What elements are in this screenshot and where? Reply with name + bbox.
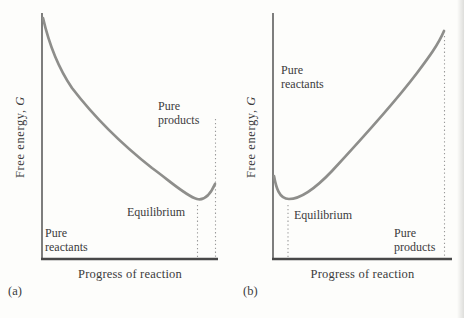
panel-a-y-axis-label-text: Free energy, xyxy=(13,106,27,178)
panel-a-equilibrium-label: Equilibrium xyxy=(127,206,185,220)
panel-a-y-axis-label-symbol: G xyxy=(13,96,27,106)
panel-b-y-axis-label: Free energy, G xyxy=(244,96,259,178)
panel-b-free-energy-curve xyxy=(274,31,444,199)
panel-b-pure-products-label: Pure products xyxy=(394,227,435,254)
panel-b-y-axis-label-text: Free energy, xyxy=(244,106,258,178)
panel-b-x-axis-label: Progress of reaction xyxy=(273,267,452,282)
panel-a-tag: (a) xyxy=(8,284,22,299)
panel-a-y-axis-label: Free energy, G xyxy=(13,96,28,178)
panel-b-equilibrium-label: Equilibrium xyxy=(294,209,352,223)
panel-b-pure-reactants-label: Pure reactants xyxy=(281,64,324,91)
panel-a-pure-products-label: Pure products xyxy=(158,100,199,127)
panel-a-x-axis-label: Progress of reaction xyxy=(42,267,218,282)
page-edge-shading xyxy=(457,0,464,318)
panel-b-y-axis-label-symbol: G xyxy=(244,96,258,106)
panel-b-tag: (b) xyxy=(243,284,258,299)
free-energy-reaction-figure: Free energy, G Pure products Equilibrium… xyxy=(0,0,464,318)
panel-a-pure-reactants-label: Pure reactants xyxy=(45,227,88,254)
